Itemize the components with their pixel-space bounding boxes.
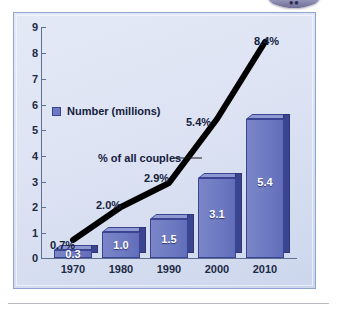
x-axis-label-1990: 1990 bbox=[146, 263, 192, 275]
bar-value-2010: 5.4 bbox=[246, 176, 284, 188]
y-tick-8 bbox=[42, 53, 46, 54]
x-axis-label-1980: 1980 bbox=[98, 263, 144, 275]
y-tick-2 bbox=[42, 207, 46, 208]
y-tick-4 bbox=[42, 156, 46, 157]
bar-side-face-1970 bbox=[91, 245, 98, 253]
pct-label-1990: 2.9% bbox=[144, 172, 169, 184]
y-axis-label-3: 3 bbox=[14, 177, 38, 188]
bar-side-face-2000 bbox=[235, 173, 242, 253]
y-axis-label-2: 2 bbox=[14, 202, 38, 213]
y-tick-1 bbox=[42, 233, 46, 234]
y-axis-label-0: 0 bbox=[14, 253, 38, 264]
y-tick-3 bbox=[42, 182, 46, 183]
cropped-badge-ornament: ●● bbox=[268, 0, 320, 8]
y-axis-label-6: 6 bbox=[14, 100, 38, 111]
pct-label-1980: 2.0% bbox=[96, 199, 121, 211]
plot-area: 9 8 7 6 5 4 3 2 1 0 0.3 1.0 1.5 bbox=[14, 13, 317, 290]
y-tick-7 bbox=[42, 79, 46, 80]
badge-glyph: ●● bbox=[268, 0, 320, 7]
series-annotation-label: % of all couples bbox=[98, 152, 181, 164]
bar-side-face-1990 bbox=[187, 214, 194, 253]
bottom-divider bbox=[8, 303, 329, 304]
y-tick-6 bbox=[42, 105, 46, 106]
legend-swatch-icon bbox=[52, 107, 61, 116]
y-axis-label-9: 9 bbox=[14, 22, 38, 33]
y-tick-5 bbox=[42, 130, 46, 131]
legend-label: Number (millions) bbox=[67, 105, 161, 117]
chart-panel: 9 8 7 6 5 4 3 2 1 0 0.3 1.0 1.5 bbox=[13, 12, 316, 289]
bar-value-1990: 1.5 bbox=[150, 233, 188, 245]
x-axis-label-2000: 2000 bbox=[194, 263, 240, 275]
pct-label-2010: 8.4% bbox=[254, 35, 279, 47]
bar-side-face-1980 bbox=[139, 227, 146, 253]
x-axis-label-2010: 2010 bbox=[242, 263, 288, 275]
x-axis-label-1970: 1970 bbox=[50, 263, 96, 275]
y-axis-label-4: 4 bbox=[14, 151, 38, 162]
bar-value-1980: 1.0 bbox=[102, 239, 140, 251]
y-axis-line bbox=[41, 27, 42, 259]
bar-2000[interactable]: 3.1 bbox=[198, 173, 236, 258]
pct-label-1970: 0.7% bbox=[50, 239, 75, 251]
y-tick-9 bbox=[42, 27, 46, 28]
y-tick-0 bbox=[42, 258, 46, 259]
legend: Number (millions) bbox=[52, 105, 161, 117]
bar-1980[interactable]: 1.0 bbox=[102, 227, 140, 258]
y-axis-label-8: 8 bbox=[14, 48, 38, 59]
pct-label-2000: 5.4% bbox=[186, 116, 211, 128]
y-axis-label-7: 7 bbox=[14, 74, 38, 85]
y-axis-label-1: 1 bbox=[14, 228, 38, 239]
bar-value-2000: 3.1 bbox=[198, 208, 236, 220]
bar-2010[interactable]: 5.4 bbox=[246, 114, 284, 258]
y-axis-label-5: 5 bbox=[14, 125, 38, 136]
bar-side-face-2010 bbox=[283, 114, 290, 253]
bar-front-face-2010 bbox=[246, 119, 284, 258]
bar-1990[interactable]: 1.5 bbox=[150, 214, 188, 258]
